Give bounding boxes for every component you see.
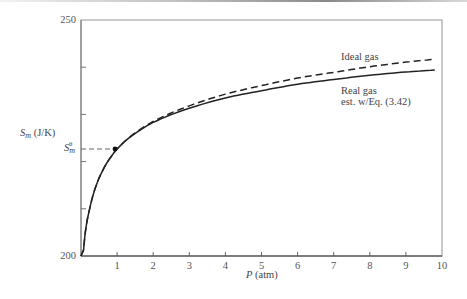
y-ticks <box>81 67 86 209</box>
reference-superscript: θ <box>69 140 72 148</box>
x-tick-label: 10 <box>437 261 448 272</box>
x-tick-label: 3 <box>187 261 192 272</box>
x-axis-units: (atm) <box>255 269 278 280</box>
x-tick-label: 2 <box>151 261 156 272</box>
legend-real-gas-line2: est. w/Eq. (3.42) <box>341 97 411 108</box>
x-tick-label: 6 <box>295 261 300 272</box>
x-tick-label: 7 <box>331 261 336 272</box>
x-axis-symbol: P <box>246 269 252 280</box>
reference-point-marker <box>113 147 118 152</box>
ideal-gas-curve <box>81 59 435 256</box>
y-tick-label-200: 200 <box>46 251 76 262</box>
reference-label: Smθ <box>64 143 78 154</box>
legend-real-gas-line1: Real gas <box>341 86 377 97</box>
legend-ideal-gas: Ideal gas <box>341 52 379 63</box>
x-tick-label: 4 <box>223 261 228 272</box>
y-axis-units: (J/K) <box>34 127 56 138</box>
x-tick-label: 1 <box>114 261 119 272</box>
y-axis-subscript: m <box>25 131 31 140</box>
x-tick-label: 8 <box>367 261 372 272</box>
x-tick-label: 9 <box>403 261 408 272</box>
plot-frame <box>81 20 442 256</box>
y-tick-label-250: 250 <box>46 15 76 26</box>
x-axis-label: P (atm) <box>246 270 278 281</box>
y-axis-label: Sm (J/K) <box>20 128 55 139</box>
